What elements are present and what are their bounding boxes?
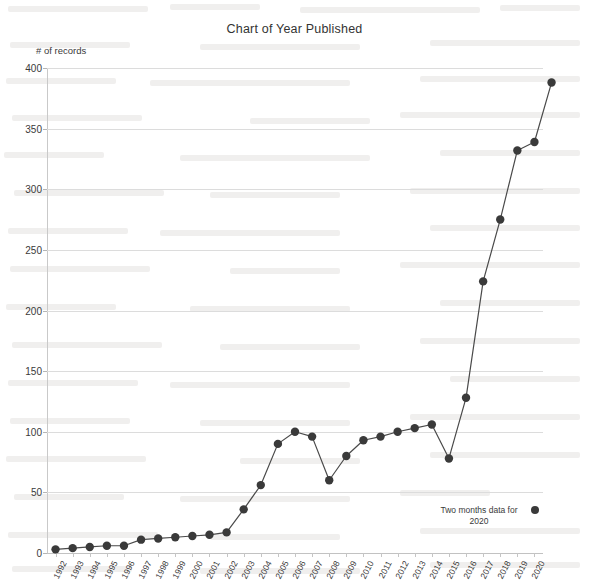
- chart-page: Chart of Year Published # of records 050…: [0, 0, 589, 584]
- data-point: [428, 420, 436, 428]
- data-point: [171, 533, 179, 541]
- data-point: [325, 476, 333, 484]
- x-tick-label: 1992: [51, 559, 69, 580]
- x-tick-label: 2014: [427, 559, 445, 580]
- data-point: [86, 543, 94, 551]
- plot-area: 050100150200250300350400 199219931994199…: [47, 68, 543, 553]
- y-tick-label: 200: [25, 305, 42, 316]
- x-tick-mark: [124, 553, 125, 557]
- chart-title: Chart of Year Published: [0, 22, 589, 36]
- series-markers: [51, 78, 555, 553]
- x-tick-label: 1996: [119, 559, 137, 580]
- annotation-line-1: Two months data for: [424, 505, 534, 516]
- data-point: [103, 542, 111, 550]
- data-point: [274, 440, 282, 448]
- x-tick-mark: [209, 553, 210, 557]
- x-tick-mark: [500, 553, 501, 557]
- data-point: [530, 138, 538, 146]
- x-tick-label: 1995: [102, 559, 120, 580]
- x-tick-label: 2006: [290, 559, 308, 580]
- x-tick-mark: [192, 553, 193, 557]
- y-axis-title: # of records: [36, 45, 86, 56]
- x-tick-label: 2005: [273, 559, 291, 580]
- data-point: [239, 505, 247, 513]
- x-tick-mark: [346, 553, 347, 557]
- data-point: [257, 481, 265, 489]
- x-tick-label: 2002: [222, 559, 240, 580]
- x-tick-label: 2011: [376, 559, 393, 580]
- x-tick-mark: [363, 553, 364, 557]
- data-point: [445, 454, 453, 462]
- annotation-line-2: 2020: [424, 516, 534, 527]
- y-tick-label: 250: [25, 244, 42, 255]
- x-tick-mark: [158, 553, 159, 557]
- x-tick-label: 2007: [307, 559, 325, 580]
- x-tick-label: 2020: [530, 559, 548, 580]
- y-tick-label: 50: [31, 487, 42, 498]
- x-tick-label: 2018: [495, 559, 513, 580]
- y-tick-label: 300: [25, 184, 42, 195]
- data-point: [291, 428, 299, 436]
- y-tick-mark: [43, 553, 47, 554]
- x-tick-mark: [295, 553, 296, 557]
- x-tick-label: 1997: [136, 559, 154, 580]
- data-point: [154, 534, 162, 542]
- y-tick-label: 100: [25, 426, 42, 437]
- annotation-two-months-2020: Two months data for 2020: [424, 505, 534, 527]
- data-point: [137, 535, 145, 543]
- x-tick-mark: [381, 553, 382, 557]
- x-tick-mark: [261, 553, 262, 557]
- x-tick-mark: [415, 553, 416, 557]
- x-tick-mark: [56, 553, 57, 557]
- data-point: [547, 78, 555, 86]
- data-point: [496, 215, 504, 223]
- data-point: [393, 428, 401, 436]
- x-tick-label: 2013: [410, 559, 428, 580]
- data-point: [51, 545, 59, 553]
- data-point: [308, 432, 316, 440]
- x-tick-mark: [329, 553, 330, 557]
- x-tick-mark: [175, 553, 176, 557]
- data-point: [462, 394, 470, 402]
- data-point: [222, 528, 230, 536]
- x-tick-label: 2003: [239, 559, 257, 580]
- x-tick-mark: [90, 553, 91, 557]
- x-tick-label: 1993: [68, 559, 86, 580]
- y-tick-label: 150: [25, 366, 42, 377]
- data-point: [376, 432, 384, 440]
- y-tick-label: 350: [25, 123, 42, 134]
- x-tick-label: 2001: [205, 559, 223, 580]
- data-series: [47, 68, 543, 553]
- x-tick-label: 2010: [359, 559, 377, 580]
- x-tick-label: 1994: [85, 559, 103, 580]
- x-tick-mark: [398, 553, 399, 557]
- x-tick-mark: [107, 553, 108, 557]
- x-tick-mark: [483, 553, 484, 557]
- data-point: [120, 542, 128, 550]
- data-point: [68, 544, 76, 552]
- x-tick-mark: [73, 553, 74, 557]
- data-point: [411, 424, 419, 432]
- data-point: [342, 452, 350, 460]
- y-tick-label: 400: [25, 63, 42, 74]
- x-tick-label: 1999: [170, 559, 188, 580]
- x-tick-mark: [517, 553, 518, 557]
- x-tick-mark: [534, 553, 535, 557]
- x-tick-label: 2017: [478, 559, 496, 580]
- x-tick-label: 2009: [341, 559, 359, 580]
- series-line: [56, 83, 552, 550]
- x-tick-mark: [227, 553, 228, 557]
- x-tick-mark: [449, 553, 450, 557]
- x-tick-mark: [244, 553, 245, 557]
- x-tick-label: 2019: [512, 559, 530, 580]
- y-tick-label: 0: [36, 548, 42, 559]
- x-tick-mark: [466, 553, 467, 557]
- x-tick-label: 2000: [187, 559, 205, 580]
- data-point: [205, 531, 213, 539]
- x-tick-label: 2016: [461, 559, 479, 580]
- x-tick-label: 2015: [444, 559, 462, 580]
- x-tick-mark: [432, 553, 433, 557]
- data-point: [513, 146, 521, 154]
- x-tick-mark: [312, 553, 313, 557]
- x-tick-label: 2012: [393, 559, 411, 580]
